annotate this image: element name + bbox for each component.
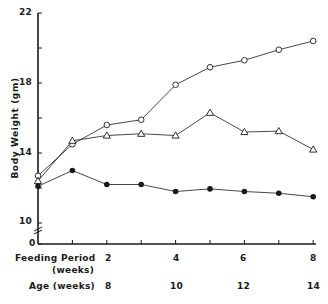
open-circle-marker xyxy=(207,64,213,70)
age-tick-12: 12 xyxy=(237,281,250,291)
open-triangle-marker xyxy=(275,128,282,134)
fp-tick-8: 8 xyxy=(310,253,317,263)
feeding-period-unit: (weeks) xyxy=(52,265,94,275)
open-triangle-marker xyxy=(138,130,145,136)
age-label: Age (weeks) xyxy=(29,281,95,291)
filled-circle-marker xyxy=(35,183,41,189)
fp-tick-4: 4 xyxy=(173,253,180,263)
open-triangle-marker xyxy=(310,146,317,152)
open-circle-marker xyxy=(276,47,282,53)
y-tick-label-0: 0 xyxy=(29,238,36,248)
filled-circle-marker xyxy=(207,186,213,192)
age-tick-8: 8 xyxy=(105,281,112,291)
series-line-1 xyxy=(38,113,313,181)
filled-circle-marker xyxy=(138,182,144,188)
series-line-0 xyxy=(38,41,313,176)
open-circle-marker xyxy=(138,117,144,123)
open-triangle-marker xyxy=(206,109,213,115)
filled-circle-marker xyxy=(276,190,282,196)
filled-circle-marker xyxy=(70,168,76,174)
filled-circle-marker xyxy=(310,194,316,200)
feeding-period-label: Feeding Period xyxy=(15,253,96,263)
body-weight-chart: Body Weight (gm) 22 18 14 10 0 Feeding P… xyxy=(0,0,328,304)
filled-circle-marker xyxy=(173,189,179,195)
age-tick-14: 14 xyxy=(307,281,320,291)
y-tick-label-18: 18 xyxy=(19,77,32,87)
y-tick-label-22: 22 xyxy=(19,7,32,17)
y-axis-label: Body Weight (gm) xyxy=(10,77,20,178)
filled-circle-marker xyxy=(104,182,110,188)
fp-tick-6: 6 xyxy=(240,253,247,263)
filled-circle-marker xyxy=(242,189,248,195)
open-circle-marker xyxy=(173,82,179,88)
open-circle-marker xyxy=(242,57,248,63)
y-tick-label-10: 10 xyxy=(19,216,32,226)
open-circle-marker xyxy=(310,38,316,44)
fp-tick-2: 2 xyxy=(105,253,112,263)
y-tick-label-14: 14 xyxy=(19,147,32,157)
open-circle-marker xyxy=(104,122,110,128)
age-tick-10: 10 xyxy=(170,281,183,291)
